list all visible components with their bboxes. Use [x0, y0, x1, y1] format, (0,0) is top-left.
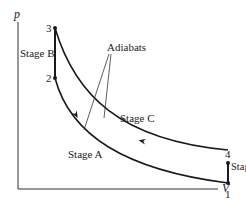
point-3	[53, 26, 57, 30]
point-1	[226, 181, 230, 185]
adiabat-pointer-1	[84, 54, 109, 130]
point-2-label: 2	[46, 72, 52, 84]
stage-a-label: Stage A	[68, 148, 103, 160]
point-3-label: 3	[46, 22, 52, 34]
point-2	[53, 76, 57, 80]
y-axis-label: p	[13, 7, 20, 21]
arrow-stage-c-icon	[142, 141, 152, 143]
adiabat-pointer-2	[104, 54, 111, 118]
point-4-label: 4	[225, 148, 231, 160]
stage-b-label: Stage B	[20, 47, 55, 59]
pv-diagram: p V 3 2 4 1 Stage B Stage C Stage A Stag…	[0, 0, 246, 204]
stage-c-label: Stage C	[120, 112, 155, 124]
adiabats-label: Adiabats	[107, 41, 146, 53]
point-4	[226, 161, 230, 165]
stage-a-curve	[55, 78, 228, 183]
point-1-label: 1	[225, 188, 231, 200]
stage-d-label: Stage D	[231, 161, 246, 172]
